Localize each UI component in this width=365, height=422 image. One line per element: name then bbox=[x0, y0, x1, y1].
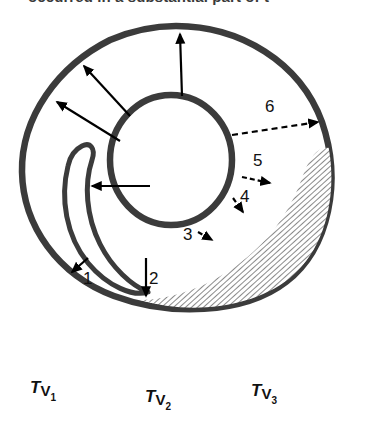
tv3-subscript-v: V bbox=[261, 385, 271, 402]
tv3-symbol: T bbox=[251, 381, 261, 400]
cross-section-figure bbox=[0, 0, 365, 422]
tv3-subscript-index: 3 bbox=[271, 395, 277, 406]
radial-arrow-up bbox=[180, 34, 182, 96]
tv2-subscript-index: 2 bbox=[165, 401, 171, 412]
callout-label-2: 2 bbox=[149, 270, 158, 287]
tissue-volume-label-1: TV1 bbox=[30, 379, 56, 396]
callout-5-arrow bbox=[242, 177, 270, 183]
radial-arrow-upper-left bbox=[84, 66, 130, 116]
callout-3-arrow bbox=[198, 232, 212, 240]
callout-label-1: 1 bbox=[83, 270, 92, 287]
callout-label-5: 5 bbox=[253, 152, 262, 169]
tv2-subscript-v: V bbox=[155, 391, 165, 408]
callout-label-3: 3 bbox=[183, 226, 192, 243]
tv1-subscript-index: 1 bbox=[50, 392, 56, 403]
callout-label-6: 6 bbox=[265, 98, 274, 115]
tv1-symbol: T bbox=[30, 378, 40, 397]
tissue-volume-label-3: TV3 bbox=[251, 382, 277, 399]
tv2-symbol: T bbox=[145, 387, 155, 406]
radial-arrow-left bbox=[57, 102, 120, 141]
tv1-subscript-v: V bbox=[40, 382, 50, 399]
callout-6-arrow bbox=[232, 122, 318, 135]
figure-stage: occurred in a substantial part of t bbox=[0, 0, 365, 422]
tissue-volume-label-2: TV2 bbox=[145, 388, 171, 405]
callout-label-4: 4 bbox=[240, 188, 249, 205]
